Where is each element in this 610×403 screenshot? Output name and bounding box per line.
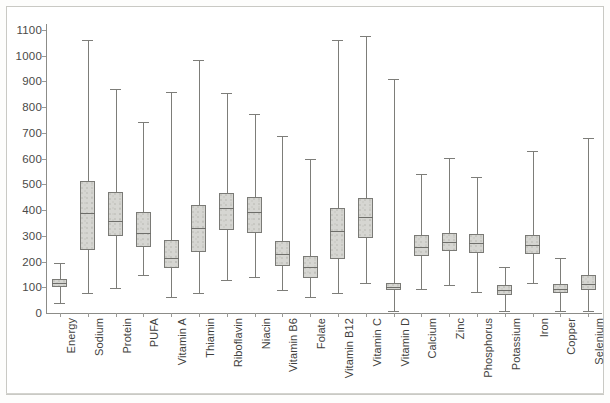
cap-lower — [277, 290, 288, 291]
x-axis-category-label: Potassium — [510, 318, 522, 370]
whisker-upper — [588, 138, 589, 275]
y-tick-label: 0 — [35, 307, 42, 319]
whisker-upper — [88, 40, 89, 182]
cap-upper — [499, 267, 510, 268]
x-axis-category-label: Phosphorus — [482, 318, 494, 378]
median-line — [52, 283, 67, 284]
box-plot-chart: 010020030040050060070080090010001100 Ene… — [0, 0, 610, 403]
cap-upper — [54, 263, 65, 264]
whisker-lower — [421, 256, 422, 289]
median-line — [330, 231, 345, 232]
cap-upper — [277, 136, 288, 137]
whisker-lower — [477, 253, 478, 292]
x-axis-category-label: Vitamin B12 — [343, 318, 355, 378]
cap-lower — [360, 283, 371, 284]
median-line — [525, 245, 540, 246]
x-axis-category-label: PUFA — [148, 318, 160, 347]
cap-lower — [332, 293, 343, 294]
y-tick-label: 900 — [22, 75, 42, 87]
whisker-lower — [449, 251, 450, 285]
whisker-upper — [199, 60, 200, 206]
x-axis-category-label: Selenium — [593, 318, 605, 365]
cap-lower — [583, 311, 594, 312]
whisker-upper — [143, 122, 144, 212]
cap-lower — [555, 311, 566, 312]
cap-upper — [138, 122, 149, 123]
y-tick-label: 200 — [22, 256, 42, 268]
x-axis-category-label: Vitamin A — [176, 318, 188, 365]
cap-upper — [249, 114, 260, 115]
cap-upper — [527, 151, 538, 152]
bottom-rule — [6, 393, 604, 394]
cap-lower — [388, 311, 399, 312]
whisker-lower — [366, 238, 367, 283]
box-iqr — [80, 181, 95, 250]
whisker-upper — [282, 136, 283, 241]
cap-upper — [388, 79, 399, 80]
cap-upper — [583, 138, 594, 139]
x-axis-category-label: Niacin — [260, 318, 272, 349]
y-tick-label: 800 — [22, 101, 42, 113]
y-tick-label: 1000 — [16, 50, 42, 62]
whisker-lower — [60, 287, 61, 302]
median-line — [247, 212, 262, 213]
cap-upper — [416, 174, 427, 175]
whisker-upper — [338, 40, 339, 208]
cap-upper — [110, 89, 121, 90]
whisker-upper — [255, 114, 256, 197]
whisker-upper — [560, 258, 561, 284]
cap-lower — [221, 280, 232, 281]
cap-lower — [499, 311, 510, 312]
whisker-upper — [449, 158, 450, 233]
y-tick-label: 100 — [22, 281, 42, 293]
cap-upper — [360, 36, 371, 37]
y-axis: 010020030040050060070080090010001100 — [0, 0, 42, 403]
cap-upper — [166, 92, 177, 93]
whisker-lower — [88, 250, 89, 293]
median-line — [219, 208, 234, 209]
median-line — [442, 242, 457, 243]
x-axis-category-label: Iron — [538, 318, 550, 337]
median-line — [386, 287, 401, 288]
x-axis-category-label: Calcium — [426, 318, 438, 358]
x-axis-category-label: Riboflavin — [232, 318, 244, 367]
box-iqr — [108, 192, 123, 236]
box-iqr — [581, 275, 596, 290]
y-tick-label: 1100 — [16, 24, 42, 36]
x-axis-category-label: Zinc — [454, 318, 466, 339]
box-iqr — [136, 212, 151, 246]
whisker-lower — [171, 268, 172, 297]
median-line — [469, 243, 484, 244]
median-line — [414, 247, 429, 248]
whisker-upper — [310, 159, 311, 256]
x-axis-category-label: Protein — [121, 318, 133, 354]
x-axis-category-label: Sodium — [93, 318, 105, 356]
whisker-lower — [533, 254, 534, 282]
y-tick-label: 500 — [22, 178, 42, 190]
whisker-upper — [477, 177, 478, 234]
cap-lower — [471, 292, 482, 293]
median-line — [80, 213, 95, 214]
median-line — [136, 233, 151, 234]
median-line — [497, 290, 512, 291]
whisker-upper — [533, 151, 534, 235]
y-tick-label: 400 — [22, 204, 42, 216]
whisker-lower — [310, 278, 311, 297]
cap-upper — [193, 60, 204, 61]
whisker-lower — [560, 293, 561, 310]
median-line — [108, 221, 123, 222]
median-line — [164, 258, 179, 259]
cap-upper — [555, 258, 566, 259]
whisker-lower — [255, 233, 256, 277]
plot-area — [46, 24, 602, 314]
cap-lower — [82, 293, 93, 294]
median-line — [553, 289, 568, 290]
median-line — [303, 267, 318, 268]
median-line — [358, 217, 373, 218]
whisker-upper — [394, 79, 395, 284]
cap-lower — [527, 283, 538, 284]
y-tick-label: 700 — [22, 127, 42, 139]
box-iqr — [164, 240, 179, 268]
cap-lower — [138, 275, 149, 276]
box-iqr — [414, 235, 429, 256]
